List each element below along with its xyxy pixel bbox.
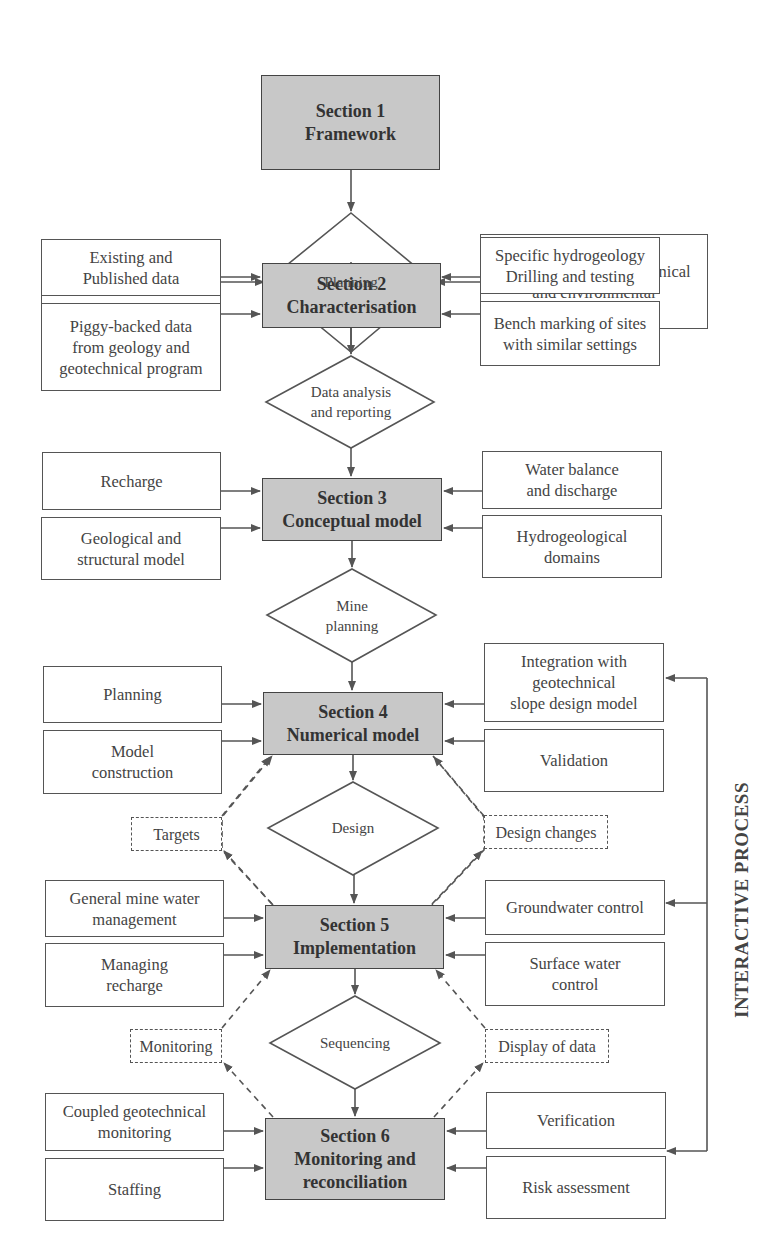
input-integration-slope-design: Integration with geotechnical slope desi… [484, 643, 664, 722]
input-piggy-backed-data: Piggy-backed data from geology and geote… [41, 303, 221, 391]
input-planning: Planning [43, 666, 222, 723]
feedback-targets: Targets [131, 817, 222, 851]
section-6-monitoring-reconciliation: Section 6 Monitoring and reconciliation [265, 1118, 445, 1200]
input-verification: Verification [486, 1092, 666, 1149]
input-validation: Validation [484, 729, 664, 792]
decision-mine-planning: Mine planning [287, 594, 417, 638]
section-6-label: Section 6 Monitoring and reconciliation [294, 1125, 416, 1194]
input-specific-hydrogeology: Specific hydrogeology Drilling and testi… [480, 237, 660, 294]
input-groundwater-control: Groundwater control [485, 880, 665, 935]
section-1-framework: Section 1 Framework [261, 75, 440, 170]
input-coupled-geotechnical-monitoring: Coupled geotechnical monitoring [45, 1093, 224, 1151]
interactive-process-label: INTERACTIVE PROCESS [727, 640, 757, 1160]
decision-data-analysis: Data analysis and reporting [286, 380, 416, 424]
input-existing-published-data: Existing and Published data [41, 239, 221, 296]
input-managing-recharge: Managing recharge [45, 943, 224, 1007]
input-geological-structural-model: Geological and structural model [41, 517, 221, 580]
input-bench-marking: Bench marking of sites with similar sett… [480, 301, 660, 366]
input-risk-assessment: Risk assessment [486, 1156, 666, 1219]
section-5-label: Section 5 Implementation [293, 914, 416, 960]
section-5-implementation: Section 5 Implementation [265, 905, 444, 969]
input-hydrogeological-domains: Hydrogeological domains [482, 515, 662, 578]
section-3-conceptual-model: Section 3 Conceptual model [262, 478, 442, 541]
input-surface-water-control: Surface water control [485, 942, 665, 1006]
input-model-construction: Model construction [43, 730, 222, 794]
decision-sequencing: Sequencing [290, 1023, 420, 1063]
section-4-numerical-model: Section 4 Numerical model [263, 692, 443, 755]
input-water-balance: Water balance and discharge [482, 451, 662, 509]
feedback-monitoring: Monitoring [130, 1029, 222, 1063]
decision-design: Design [288, 808, 418, 848]
decision-planning: Planning [286, 262, 416, 302]
feedback-design-changes: Design changes [484, 815, 608, 849]
section-3-label: Section 3 Conceptual model [282, 487, 422, 533]
input-recharge: Recharge [42, 452, 221, 510]
section-1-label: Section 1 Framework [305, 100, 396, 146]
section-4-label: Section 4 Numerical model [287, 701, 419, 747]
input-staffing: Staffing [45, 1158, 224, 1221]
input-general-mine-water: General mine water management [45, 880, 224, 937]
feedback-display-of-data: Display of data [485, 1029, 609, 1063]
